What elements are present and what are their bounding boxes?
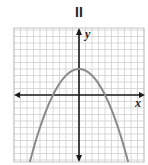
y-axis-up-arrow-icon — [76, 28, 82, 35]
y-axis-label: y — [83, 27, 91, 41]
y-axis-down-arrow-icon — [76, 155, 82, 162]
x-axis-label: x — [134, 96, 141, 110]
coordinate-plane: y x — [0, 0, 148, 165]
x-axis-left-arrow-icon — [14, 92, 20, 98]
